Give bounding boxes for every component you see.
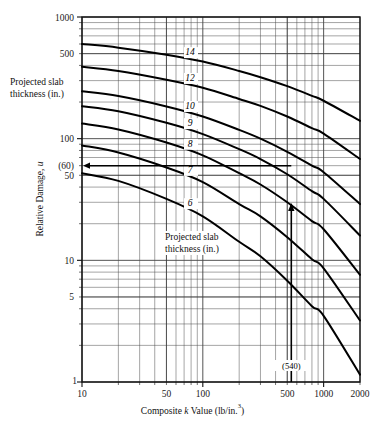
outer-thickness-caption-line1: Projected slab — [10, 76, 64, 88]
curve-label-9: 9 — [188, 118, 193, 128]
y-tick-5: 5 — [69, 292, 74, 302]
y-tick-1000: 1000 — [55, 13, 74, 23]
x-tick-2000: 2000 — [351, 389, 370, 399]
axis-ticks — [77, 17, 360, 387]
k-540-label: (540) — [282, 361, 301, 371]
y-tick-1: 1 — [72, 376, 77, 386]
inner-thickness-caption-line1: Projected slab — [165, 231, 219, 243]
y-tick-60-parenthetical: (60) — [58, 161, 74, 172]
chart-svg: 1412109876 (540) 10501005001000200051050… — [0, 0, 385, 422]
x-axis-title-post: ) — [241, 406, 244, 416]
x-tick-500: 500 — [280, 389, 295, 399]
outer-thickness-caption-line2: thickness (in.) — [10, 88, 64, 100]
x-axis-title-mid: Value (lb/in. — [189, 406, 238, 416]
x-tick-10: 10 — [77, 389, 87, 399]
curve-label-8: 8 — [188, 139, 193, 149]
inner-thickness-caption: Projected slab thickness (in.) — [164, 231, 220, 255]
y-tick-10: 10 — [65, 256, 75, 266]
relative-damage-chart-figure: 1412109876 (540) 10501005001000200051050… — [0, 0, 385, 422]
inner-thickness-caption-line2: thickness (in.) — [165, 243, 219, 255]
tick-labels: 1050100500100020005105010050010001(60) — [55, 13, 370, 400]
x-axis-title: Composite k Value (lb/in.3) — [0, 400, 385, 418]
curve-label-10: 10 — [185, 101, 195, 111]
y-tick-500: 500 — [60, 49, 75, 59]
curve-label-6: 6 — [188, 198, 193, 208]
curve-label-12: 12 — [185, 73, 195, 83]
outer-thickness-caption: Projected slab thickness (in.) — [10, 76, 64, 100]
y-axis-title: Relative Damage, u — [29, 139, 47, 259]
y-tick-50: 50 — [65, 171, 75, 181]
y-tick-100: 100 — [60, 134, 75, 144]
y-axis-title-text: Relative Damage, — [35, 166, 45, 236]
x-tick-100: 100 — [196, 389, 211, 399]
x-axis-title-pre: Composite — [141, 406, 185, 416]
x-tick-1000: 1000 — [314, 389, 333, 399]
x-tick-50: 50 — [162, 389, 172, 399]
curve-label-14: 14 — [185, 47, 195, 57]
damage-60-arrowhead — [83, 162, 90, 168]
y-axis-title-symbol: u — [35, 161, 45, 166]
